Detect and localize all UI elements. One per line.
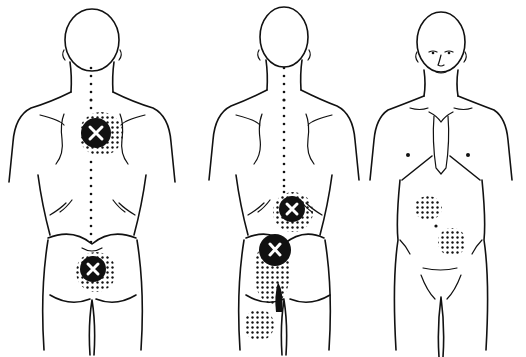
trigger-point-lumbar — [273, 192, 313, 232]
trigger-point-upper-back — [79, 112, 123, 156]
trigger-point-gluteal — [259, 234, 291, 266]
spine-marks-1 — [90, 67, 93, 244]
back-figure-2 — [209, 7, 359, 355]
front-figure — [370, 12, 512, 357]
back-figure-1 — [9, 9, 175, 355]
trigger-point-sacrum — [76, 252, 116, 292]
referred-pain-abdomen-lower — [438, 228, 466, 256]
referred-pain-thigh — [244, 309, 274, 341]
figure-canvas — [0, 0, 526, 357]
referred-pain-abdomen-upper — [414, 196, 442, 220]
illustration — [0, 0, 526, 357]
navel — [434, 224, 437, 227]
spine-marks-2 — [282, 67, 285, 194]
